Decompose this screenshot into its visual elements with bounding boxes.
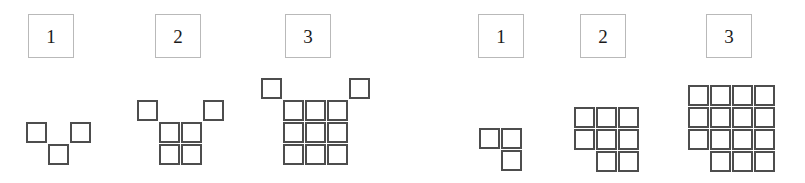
unit-square (181, 144, 202, 165)
unit-square (48, 144, 69, 165)
unit-square (305, 122, 326, 143)
unit-square (327, 122, 348, 143)
unit-square (596, 129, 617, 150)
figure-canvas: 123123 (0, 0, 805, 183)
unit-square (181, 122, 202, 143)
unit-square (283, 144, 304, 165)
figure-label-text: 2 (173, 27, 183, 46)
unit-square (283, 100, 304, 121)
unit-square (574, 107, 595, 128)
figure-label-box-left-sequence-1: 1 (28, 14, 74, 58)
figure-label-box-right-sequence-3: 3 (706, 14, 752, 58)
figure-label-text: 1 (46, 27, 56, 46)
unit-square (710, 85, 731, 106)
unit-square (710, 107, 731, 128)
unit-square (159, 144, 180, 165)
unit-square (618, 107, 639, 128)
unit-square (710, 129, 731, 150)
unit-square (688, 107, 709, 128)
unit-square (327, 144, 348, 165)
unit-square (732, 85, 753, 106)
figure-label-box-left-sequence-2: 2 (155, 14, 201, 58)
unit-square (618, 129, 639, 150)
unit-square (618, 151, 639, 172)
unit-square (732, 129, 753, 150)
unit-square (203, 100, 224, 121)
unit-square (283, 122, 304, 143)
unit-square (501, 150, 522, 171)
unit-square (596, 151, 617, 172)
figure-label-text: 1 (496, 27, 506, 46)
figure-label-box-right-sequence-1: 1 (478, 14, 524, 58)
unit-square (688, 85, 709, 106)
unit-square (754, 85, 775, 106)
unit-square (26, 122, 47, 143)
figure-label-box-right-sequence-2: 2 (580, 14, 626, 58)
unit-square (261, 78, 282, 99)
unit-square (305, 144, 326, 165)
unit-square (305, 100, 326, 121)
unit-square (501, 128, 522, 149)
unit-square (754, 129, 775, 150)
unit-square (479, 128, 500, 149)
unit-square (349, 78, 370, 99)
unit-square (732, 151, 753, 172)
figure-label-text: 3 (303, 27, 313, 46)
unit-square (137, 100, 158, 121)
unit-square (70, 122, 91, 143)
unit-square (596, 107, 617, 128)
unit-square (754, 151, 775, 172)
unit-square (574, 129, 595, 150)
figure-label-box-left-sequence-3: 3 (285, 14, 331, 58)
unit-square (159, 122, 180, 143)
figure-label-text: 2 (598, 27, 608, 46)
unit-square (327, 100, 348, 121)
unit-square (710, 151, 731, 172)
figure-label-text: 3 (724, 27, 734, 46)
unit-square (732, 107, 753, 128)
unit-square (688, 129, 709, 150)
unit-square (754, 107, 775, 128)
